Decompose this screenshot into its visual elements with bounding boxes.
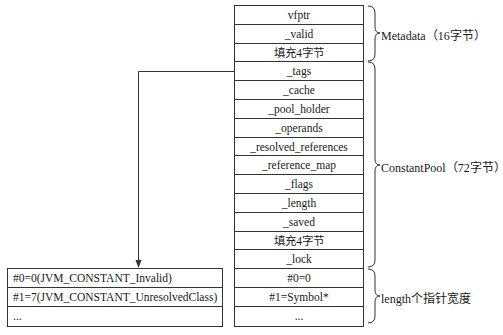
metadata-label: Metadata（16字节）	[381, 26, 486, 44]
arrow-connector	[139, 72, 235, 265]
tags-array-table: #0=0(JVM_CONSTANT_Invalid) #1=7(JVM_CONS…	[7, 268, 223, 327]
brace-metadata-icon	[368, 6, 380, 61]
tag-entry-1: #1=7(JVM_CONSTANT_UnresolvedClass)	[8, 288, 222, 307]
tag-entry-0: #0=0(JVM_CONSTANT_Invalid)	[8, 269, 222, 288]
field-reference-map: _reference_map	[235, 156, 363, 175]
brace-pointers-icon	[368, 269, 380, 323]
field-length: _length	[235, 194, 363, 213]
field-pool-holder: _pool_holder	[235, 100, 363, 119]
pointer-slot-ellipsis: ...	[235, 307, 363, 326]
tag-entry-ellipsis: ...	[8, 307, 222, 326]
constant-pool-memory-layout: vfptr _valid 填充4字节 _tags _cache _pool_ho…	[234, 5, 364, 327]
field-padding-1: 填充4字节	[235, 44, 363, 63]
pointer-width-label: length个指针宽度	[381, 289, 471, 307]
field-flags: _flags	[235, 175, 363, 194]
pointer-slot-0: #0=0	[235, 269, 363, 288]
pointer-slot-1: #1=Symbol*	[235, 288, 363, 307]
field-vfptr: vfptr	[235, 6, 363, 25]
arrow-head-icon	[136, 260, 142, 268]
field-operands: _operands	[235, 119, 363, 138]
field-saved: _saved	[235, 213, 363, 232]
constantpool-label: ConstantPool（72字节）	[381, 158, 503, 176]
field-valid: _valid	[235, 25, 363, 44]
field-resolved-references: _resolved_references	[235, 138, 363, 157]
field-tags: _tags	[235, 62, 363, 81]
field-cache: _cache	[235, 81, 363, 100]
field-padding-2: 填充4字节	[235, 232, 363, 251]
brace-constantpool-icon	[368, 62, 380, 267]
field-lock: _lock	[235, 250, 363, 269]
